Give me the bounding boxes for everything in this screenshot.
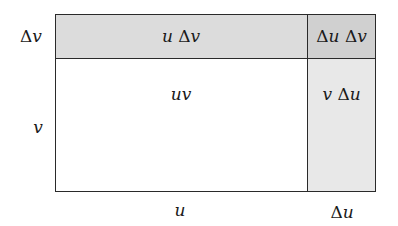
horizontal-divider — [55, 58, 376, 59]
label-u: u — [170, 200, 190, 220]
label-delta-u: Δu — [322, 202, 362, 222]
var-u: u — [343, 202, 354, 222]
label-delta-v: Δv — [14, 26, 48, 46]
label-v: v — [28, 117, 48, 137]
vertical-divider — [307, 14, 308, 192]
var-u: u — [175, 200, 186, 220]
var-v: v — [33, 117, 43, 137]
rectangle-outline — [55, 14, 376, 192]
var-v: v — [32, 26, 42, 46]
delta-symbol: Δ — [330, 202, 342, 222]
delta-symbol: Δ — [20, 26, 32, 46]
